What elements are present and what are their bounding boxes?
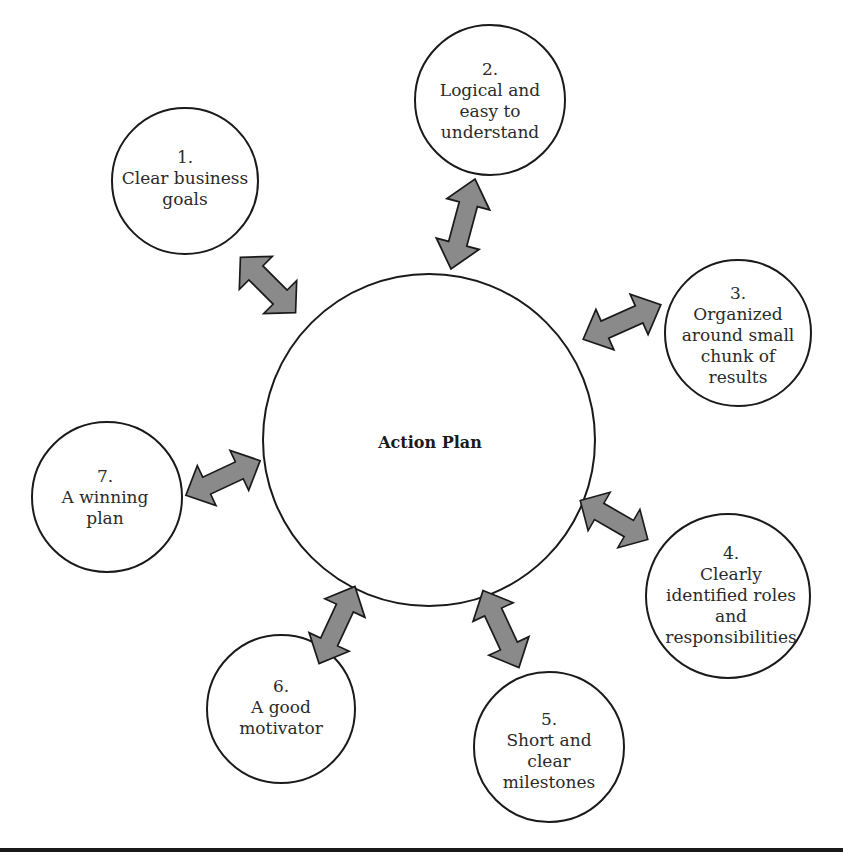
double-arrow-icon-3: [574, 285, 670, 360]
node-text-2-line-3: understand: [440, 122, 540, 143]
node-number-4: 4.: [665, 543, 796, 564]
node-text-7-line-1: A winning: [62, 487, 149, 508]
node-number-1: 1.: [122, 147, 249, 168]
double-arrow-icon-2: [430, 173, 497, 274]
node-text-6-line-1: A good: [239, 697, 323, 718]
node-text-5-line-3: milestones: [503, 772, 596, 793]
node-text-3-line-4: results: [682, 367, 795, 388]
double-arrow-icon-1: [224, 241, 312, 329]
node-label-6: 6. A good motivator: [239, 676, 323, 739]
node-text-2-line-2: easy to: [440, 101, 540, 122]
node-label-7: 7. A winning plan: [62, 466, 149, 529]
node-number-5: 5.: [503, 709, 596, 730]
double-arrow-icon-7: [177, 441, 270, 516]
node-label-1: 1. Clear business goals: [122, 147, 249, 210]
node-label-4: 4. Clearly identified roles and responsi…: [665, 543, 796, 648]
node-text-4-line-1: Clearly: [665, 564, 796, 585]
node-label-3: 3. Organized around small chunk of resul…: [682, 283, 795, 388]
node-text-4-line-2: identified roles: [665, 585, 796, 606]
node-text-4-line-4: responsibilities: [665, 627, 796, 648]
node-text-7-line-2: plan: [62, 508, 149, 529]
node-label-2: 2. Logical and easy to understand: [440, 59, 540, 143]
node-text-1-line-2: goals: [122, 189, 249, 210]
node-text-3-line-2: around small: [682, 325, 795, 346]
node-label-5: 5. Short and clear milestones: [503, 709, 596, 793]
node-number-2: 2.: [440, 59, 540, 80]
node-text-4-line-3: and: [665, 606, 796, 627]
bottom-rule-divider: [0, 848, 843, 852]
node-text-1-line-1: Clear business: [122, 168, 249, 189]
node-number-7: 7.: [62, 466, 149, 487]
node-text-5-line-1: Short and: [503, 730, 596, 751]
node-number-3: 3.: [682, 283, 795, 304]
node-number-6: 6.: [239, 676, 323, 697]
node-text-2-line-1: Logical and: [440, 80, 540, 101]
node-text-6-line-2: motivator: [239, 718, 323, 739]
node-text-3-line-1: Organized: [682, 304, 795, 325]
node-text-3-line-3: chunk of: [682, 346, 795, 367]
center-label: Action Plan: [378, 433, 482, 452]
node-text-5-line-2: clear: [503, 751, 596, 772]
